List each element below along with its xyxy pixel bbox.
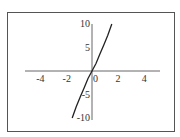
chart: -4-2024 105-5-10	[0, 0, 180, 137]
x-tick-label: -2	[63, 73, 71, 84]
x-tick-label: 4	[142, 73, 147, 84]
x-tick-label: 0	[93, 73, 98, 84]
x-tick-label: 2	[115, 73, 120, 84]
y-tick-label: 10	[80, 18, 90, 29]
y-tick-label: -10	[77, 112, 90, 123]
x-tick-label: -4	[36, 73, 44, 84]
y-tick-label: 5	[85, 42, 90, 53]
